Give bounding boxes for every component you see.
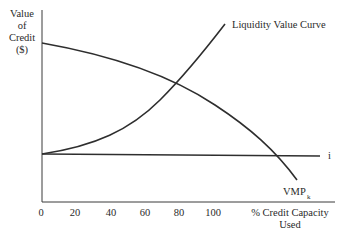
y-label-line-2: of (18, 20, 27, 31)
x-tick-0: 0 (38, 207, 43, 218)
y-label-line-4: ($) (16, 44, 29, 56)
chart-figure: Value of Credit ($) 0 20 40 60 80 100 % … (0, 0, 352, 236)
vmp-label-subscript: k (307, 193, 311, 201)
vmp-k-curve (42, 43, 297, 180)
y-label-line-3: Credit (9, 32, 35, 43)
vmp-label-main: VMP (283, 186, 306, 197)
x-tick-20: 20 (70, 207, 81, 218)
liquidity-value-curve (42, 24, 225, 154)
x-tick-60: 60 (140, 207, 151, 218)
liquidity-value-curve-label: Liquidity Value Curve (232, 19, 326, 30)
y-label-line-1: Value (10, 8, 34, 19)
x-label-line-1: % Credit Capacity (251, 207, 329, 218)
x-tick-40: 40 (106, 207, 117, 218)
vmp-k-label: VMP k (283, 186, 311, 201)
x-tick-80: 80 (174, 207, 185, 218)
x-tick-labels: 0 20 40 60 80 100 (38, 207, 221, 218)
x-label-line-2: Used (279, 219, 301, 230)
interest-rate-label: i (328, 150, 331, 161)
x-axis-label: % Credit Capacity Used (251, 207, 329, 230)
interest-rate-line (42, 154, 320, 156)
x-tick-100: 100 (205, 207, 221, 218)
y-axis-label: Value of Credit ($) (9, 8, 35, 56)
